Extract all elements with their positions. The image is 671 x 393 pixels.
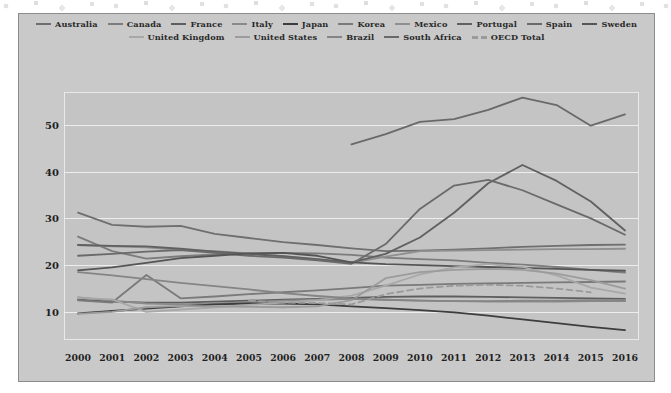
legend-item-sweden[interactable]: Sweden xyxy=(582,19,637,29)
x-tick-label: 2002 xyxy=(133,352,159,363)
legend-swatch-icon xyxy=(384,36,399,39)
legend-label: Brazil xyxy=(346,32,374,42)
y-tick-label: 50 xyxy=(45,119,59,130)
series-line-australia xyxy=(78,213,625,251)
chart-legend: AustraliaCanadaFranceItalyJapanKoreaMexi… xyxy=(19,19,654,42)
legend-swatch-icon xyxy=(338,23,353,26)
series-line-south-africa xyxy=(352,98,626,145)
legend-swatch-icon xyxy=(108,23,123,26)
legend-label: Korea xyxy=(357,19,385,29)
legend-row-1: AustraliaCanadaFranceItalyJapanKoreaMexi… xyxy=(31,19,642,29)
x-tick-label: 2016 xyxy=(612,352,638,363)
legend-swatch-icon xyxy=(395,23,410,26)
y-axis: 1020304050 xyxy=(19,92,59,340)
legend-label: United Kingdom xyxy=(148,32,225,42)
y-tick-label: 20 xyxy=(45,260,59,271)
x-tick-label: 2012 xyxy=(475,352,501,363)
x-tick-label: 2007 xyxy=(304,352,330,363)
legend-swatch-icon xyxy=(582,23,597,26)
legend-item-south-africa[interactable]: South Africa xyxy=(384,32,462,42)
x-tick-label: 2010 xyxy=(407,352,433,363)
plot-area xyxy=(64,92,639,340)
legend-swatch-icon xyxy=(457,23,472,26)
series-line-spain xyxy=(78,180,625,264)
x-tick-label: 2008 xyxy=(339,352,365,363)
legend-swatch-icon xyxy=(327,36,342,39)
legend-label: Spain xyxy=(546,19,573,29)
legend-item-oecd-total[interactable]: OECD Total xyxy=(472,32,545,42)
legend-label: Canada xyxy=(127,19,162,29)
legend-label: France xyxy=(190,19,222,29)
legend-label: Sweden xyxy=(601,19,637,29)
legend-swatch-icon xyxy=(171,23,186,26)
legend-item-canada[interactable]: Canada xyxy=(108,19,162,29)
x-tick-label: 2014 xyxy=(544,352,570,363)
legend-swatch-icon xyxy=(235,36,250,39)
legend-swatch-icon xyxy=(36,23,51,26)
legend-item-portugal[interactable]: Portugal xyxy=(457,19,516,29)
chart-figure: AustraliaCanadaFranceItalyJapanKoreaMexi… xyxy=(18,13,655,382)
legend-item-united-states[interactable]: United States xyxy=(235,32,318,42)
x-tick-label: 2009 xyxy=(373,352,399,363)
legend-item-france[interactable]: France xyxy=(171,19,222,29)
legend-item-italy[interactable]: Italy xyxy=(232,19,272,29)
legend-item-united-kingdom[interactable]: United Kingdom xyxy=(129,32,225,42)
legend-label: Italy xyxy=(251,19,272,29)
legend-label: OECD Total xyxy=(491,32,545,42)
legend-item-spain[interactable]: Spain xyxy=(527,19,573,29)
legend-swatch-icon xyxy=(129,36,144,39)
legend-item-japan[interactable]: Japan xyxy=(283,19,329,29)
x-axis: 2000200120022003200420052006200720082009… xyxy=(64,352,639,370)
legend-label: South Africa xyxy=(403,32,462,42)
legend-label: Australia xyxy=(55,19,98,29)
y-tick-label: 30 xyxy=(45,213,59,224)
x-tick-label: 2015 xyxy=(578,352,604,363)
x-tick-label: 2003 xyxy=(168,352,194,363)
legend-swatch-icon xyxy=(472,36,487,39)
series-lines xyxy=(64,92,639,340)
legend-label: Portugal xyxy=(476,19,516,29)
x-tick-label: 2005 xyxy=(236,352,262,363)
y-tick-label: 40 xyxy=(45,166,59,177)
legend-swatch-icon xyxy=(232,23,247,26)
legend-label: United States xyxy=(254,32,318,42)
legend-item-korea[interactable]: Korea xyxy=(338,19,385,29)
x-tick-label: 2011 xyxy=(441,352,467,363)
legend-label: Mexico xyxy=(414,19,447,29)
x-tick-label: 2006 xyxy=(270,352,296,363)
legend-swatch-icon xyxy=(283,23,298,26)
series-line-canada xyxy=(78,237,625,273)
legend-item-brazil[interactable]: Brazil xyxy=(327,32,374,42)
legend-item-australia[interactable]: Australia xyxy=(36,19,98,29)
legend-item-mexico[interactable]: Mexico xyxy=(395,19,447,29)
legend-label: Japan xyxy=(302,19,329,29)
legend-row-2: United KingdomUnited StatesBrazilSouth A… xyxy=(124,32,550,42)
x-tick-label: 2000 xyxy=(65,352,91,363)
x-tick-label: 2004 xyxy=(202,352,228,363)
y-tick-label: 10 xyxy=(45,306,59,317)
x-tick-label: 2013 xyxy=(509,352,535,363)
legend-swatch-icon xyxy=(527,23,542,26)
x-tick-label: 2001 xyxy=(99,352,125,363)
